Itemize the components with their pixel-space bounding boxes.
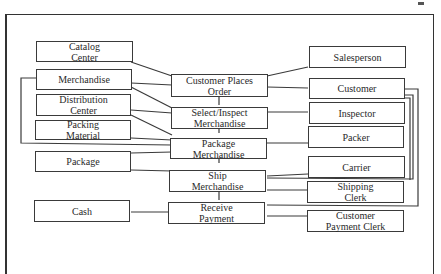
agent-inspector: Inspector [309,102,405,124]
resource-merchandise: Merchandise [36,69,132,90]
process-select-inspect-merchandise: Select/Inspect Merchandise [171,107,268,129]
resource-distribution-center: Distribution Center [36,94,131,116]
agent-packer: Packer [308,126,404,148]
resource-package: Package [35,151,131,172]
process-receive-payment: Receive Payment [168,202,265,224]
process-ship-merchandise: Ship Merchandise [169,170,266,192]
agent-salesperson: Salesperson [309,46,406,68]
resource-cash: Cash [34,200,130,222]
resource-catalog-center: Catalog Center [36,41,133,62]
agent-shipping-clerk: Shipping Clerk [307,181,404,203]
agent-customer: Customer [309,78,405,99]
process-customer-places-order: Customer Places Order [171,74,268,97]
agent-customer-payment-clerk: Customer Payment Clerk [307,210,404,232]
agent-carrier: Carrier [308,156,405,178]
process-package-merchandise: Package Merchandise [170,138,267,159]
resource-packing-material: Packing Material [35,120,131,140]
